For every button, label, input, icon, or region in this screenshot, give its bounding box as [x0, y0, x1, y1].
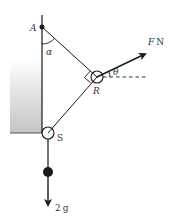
string-r-to-s [48, 77, 97, 133]
label-a: A [29, 23, 37, 33]
label-force: FN [147, 37, 164, 47]
label-theta: θ [113, 67, 119, 77]
point-a-dot [40, 25, 45, 30]
right-angle-marker [85, 71, 91, 83]
label-r: R [92, 86, 100, 96]
force-f-arrow [97, 54, 145, 77]
wall [10, 58, 42, 133]
label-weight: 2g [55, 203, 69, 213]
mass-particle [43, 167, 53, 177]
label-s: S [57, 133, 63, 143]
angle-alpha-arc [42, 38, 55, 44]
label-alpha: α [46, 47, 52, 57]
pulley-diagram: A α θ R FN S 2g [0, 0, 172, 224]
angle-theta-arc [109, 71, 110, 77]
